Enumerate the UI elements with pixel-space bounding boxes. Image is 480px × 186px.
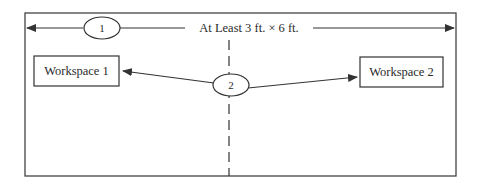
callout-2: 2 — [213, 74, 249, 96]
workspace-1-box: Workspace 1 — [34, 56, 119, 86]
workspace-2-box: Workspace 2 — [360, 57, 443, 87]
dimension-label: At Least 3 ft. × 6 ft. — [199, 21, 298, 35]
workspace-layout-diagram: 1 At Least 3 ft. × 6 ft. 2 Workspace 1 W… — [0, 0, 480, 186]
workspace-2-label: Workspace 2 — [369, 65, 434, 79]
callout-2-number: 2 — [228, 79, 234, 91]
arrow-to-workspace-2 — [248, 77, 357, 88]
workspace-1-label: Workspace 1 — [44, 64, 109, 78]
callout-1-number: 1 — [99, 22, 105, 34]
arrow-to-workspace-1 — [123, 71, 214, 83]
callout-1: 1 — [84, 17, 120, 39]
